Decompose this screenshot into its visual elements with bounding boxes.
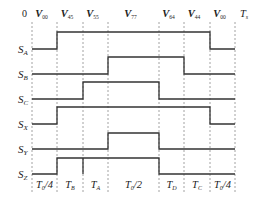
interval-label: TB (65, 179, 75, 191)
interval-label: TD (166, 179, 177, 191)
signal-label-c: SC (18, 93, 29, 107)
signal-traces: SASBSCSXSYSZ (18, 32, 235, 182)
interval-label: TA (91, 179, 101, 191)
vector-label: V64 (162, 8, 175, 20)
vector-label: V55 (86, 8, 99, 20)
interval-label: TC (192, 179, 203, 191)
signal-label-y: SY (18, 143, 29, 157)
signal-trace-y (32, 133, 235, 149)
timing-diagram: SASBSCSXSYSZ 0V00V45V55V77V64V44V00TsT0/… (0, 0, 260, 200)
interval-label: T0/4 (214, 179, 232, 191)
signal-label-b: SB (18, 68, 29, 82)
signal-label-z: SZ (18, 168, 28, 182)
vector-label: V44 (188, 8, 201, 20)
signal-trace-a (32, 32, 235, 49)
interval-label: T0/2 (125, 179, 143, 191)
interval-label: T0/4 (36, 179, 54, 191)
time-zero-label: 0 (22, 8, 27, 19)
period-end-label: Ts (240, 8, 249, 20)
vector-label: V00 (213, 8, 226, 20)
signal-label-a: SA (18, 43, 29, 57)
signal-label-x: SX (18, 118, 29, 132)
signal-trace-z (32, 158, 235, 174)
vector-label: V00 (35, 8, 48, 20)
signal-trace-c (32, 82, 235, 99)
signal-trace-b (32, 57, 235, 74)
vector-label: V77 (124, 8, 137, 20)
signal-trace-x (32, 107, 235, 124)
vector-label: V45 (61, 8, 74, 20)
